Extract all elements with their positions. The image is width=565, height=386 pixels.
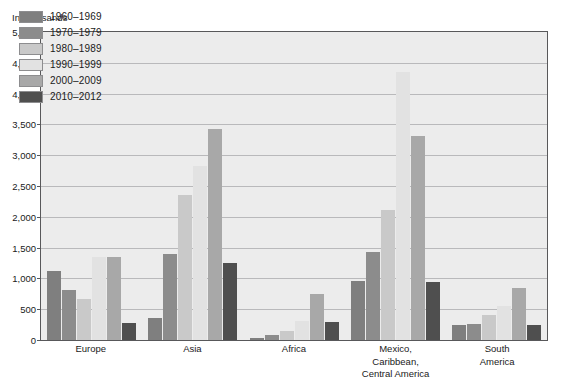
- legend: 1960–19691970–19791980–19891990–19992000…: [19, 10, 102, 103]
- bar: [148, 318, 162, 340]
- x-axis-category-label-line: South: [446, 343, 548, 356]
- y-axis-tick-label: 500: [20, 304, 36, 315]
- bar: [208, 129, 222, 340]
- legend-swatch: [19, 91, 43, 103]
- bar: [250, 338, 264, 340]
- bar-group: [446, 32, 547, 340]
- bar: [482, 315, 496, 340]
- y-axis-tick-label: 1,000: [12, 273, 36, 284]
- bar: [497, 306, 511, 340]
- legend-label: 1990–1999: [50, 59, 102, 70]
- legend-swatch: [19, 27, 43, 39]
- bar: [512, 288, 526, 340]
- x-axis-category-label-line: Africa: [243, 343, 345, 356]
- bar: [280, 331, 294, 340]
- bar: [467, 324, 481, 340]
- bar: [47, 271, 61, 340]
- legend-item: 2000–2009: [19, 74, 102, 87]
- bar: [452, 325, 466, 340]
- bar: [92, 257, 106, 340]
- bar-group: [142, 32, 243, 340]
- x-axis-category-label-line: Caribbean,: [345, 356, 447, 369]
- y-axis-tick-label: 3,000: [12, 150, 36, 161]
- bar: [396, 72, 410, 340]
- legend-label: 2000–2009: [50, 75, 102, 86]
- bar: [265, 335, 279, 340]
- y-axis-tick-label: 1,500: [12, 242, 36, 253]
- bar: [366, 252, 380, 340]
- x-axis-category-label-line: America: [446, 356, 548, 369]
- bar: [325, 322, 339, 340]
- x-axis-labels: EuropeAsiaAfricaMexico,Caribbean,Central…: [40, 343, 548, 381]
- x-axis-category-label: Africa: [243, 343, 345, 381]
- legend-label: 1980–1989: [50, 43, 102, 54]
- bar: [310, 294, 324, 340]
- bar: [295, 321, 309, 340]
- x-axis-category-label: SouthAmerica: [446, 343, 548, 381]
- bar: [62, 290, 76, 341]
- bar: [193, 166, 207, 340]
- grouped-bar-chart: In thousands 5,0004,5004,0003,5003,0002,…: [0, 0, 565, 386]
- legend-swatch: [19, 11, 43, 23]
- bar: [163, 254, 177, 340]
- legend-item: 1960–1969: [19, 10, 102, 23]
- legend-item: 1980–1989: [19, 42, 102, 55]
- legend-swatch: [19, 75, 43, 87]
- x-axis-category-label-line: Europe: [40, 343, 142, 356]
- y-axis-tick-label: 0: [31, 335, 36, 346]
- legend-label: 2010–2012: [50, 91, 102, 102]
- legend-item: 2010–2012: [19, 90, 102, 103]
- bar: [77, 299, 91, 340]
- x-axis-category-label: Europe: [40, 343, 142, 381]
- x-axis-category-label-line: Mexico,: [345, 343, 447, 356]
- legend-label: 1960–1969: [50, 11, 102, 22]
- x-axis-category-label: Mexico,Caribbean,Central America: [345, 343, 447, 381]
- bar: [122, 323, 136, 340]
- x-axis-category-label-line: Asia: [142, 343, 244, 356]
- bar: [107, 257, 121, 340]
- bar-group: [345, 32, 446, 340]
- bar: [351, 281, 365, 340]
- legend-swatch: [19, 59, 43, 71]
- x-axis-category-label: Asia: [142, 343, 244, 381]
- y-axis-tick-label: 2,000: [12, 211, 36, 222]
- legend-label: 1970–1979: [50, 27, 102, 38]
- x-axis-category-label-line: Central America: [345, 368, 447, 381]
- bar: [527, 325, 541, 340]
- bar: [426, 282, 440, 340]
- bar-groups: [41, 32, 547, 340]
- bar-group: [243, 32, 344, 340]
- legend-item: 1970–1979: [19, 26, 102, 39]
- bar: [178, 195, 192, 340]
- legend-swatch: [19, 43, 43, 55]
- y-axis-tick-label: 3,500: [12, 119, 36, 130]
- legend-item: 1990–1999: [19, 58, 102, 71]
- y-axis-tick-label: 2,500: [12, 181, 36, 192]
- bar: [381, 210, 395, 340]
- plot-area: [40, 31, 548, 341]
- bar: [411, 136, 425, 341]
- bar: [223, 263, 237, 340]
